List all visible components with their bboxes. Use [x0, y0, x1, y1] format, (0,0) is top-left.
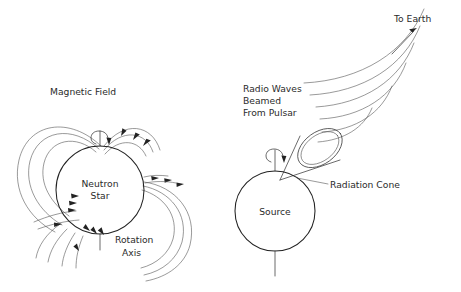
field-direction-arrowheads-west: [54, 194, 79, 227]
label-neutron-star-line2: Star: [91, 190, 110, 201]
left-panel-group: Magnetic Field Neutron Star Rotation Axi…: [17, 86, 191, 281]
label-radio-waves-line2: Beamed: [243, 95, 281, 106]
label-radio-waves-line3: From Pulsar: [243, 107, 297, 118]
label-to-earth: To Earth: [393, 13, 431, 24]
magnetic-field-lines-lower-right: [141, 182, 192, 281]
radiation-cone-mouth: [290, 120, 349, 175]
label-rotation-axis-line2: Axis: [122, 247, 141, 258]
label-radio-waves-line1: Radio Waves: [243, 83, 302, 94]
to-earth-arrow: [392, 28, 417, 54]
label-rotation-axis-line1: Rotation: [115, 234, 154, 245]
radio-wave-arcs: [304, 9, 424, 142]
label-neutron-star-line1: Neutron: [82, 178, 119, 189]
label-source: Source: [259, 206, 291, 217]
diagram-canvas: Magnetic Field Neutron Star Rotation Axi…: [0, 0, 461, 292]
rotation-spiral-arrow-left: [91, 131, 111, 145]
label-magnetic-field: Magnetic Field: [50, 86, 116, 97]
rotation-spiral-arrow-right: [266, 149, 286, 163]
equatorial-outflow-lines: [144, 175, 176, 183]
pulsar-diagram-figure: Magnetic Field Neutron Star Rotation Axi…: [0, 0, 461, 292]
right-panel-group: Radio Waves Beamed From Pulsar To Earth …: [235, 9, 431, 276]
magnetic-field-lines-upper-right: [104, 128, 160, 156]
label-radiation-cone: Radiation Cone: [330, 179, 400, 190]
field-direction-arrowheads-north: [121, 128, 151, 146]
